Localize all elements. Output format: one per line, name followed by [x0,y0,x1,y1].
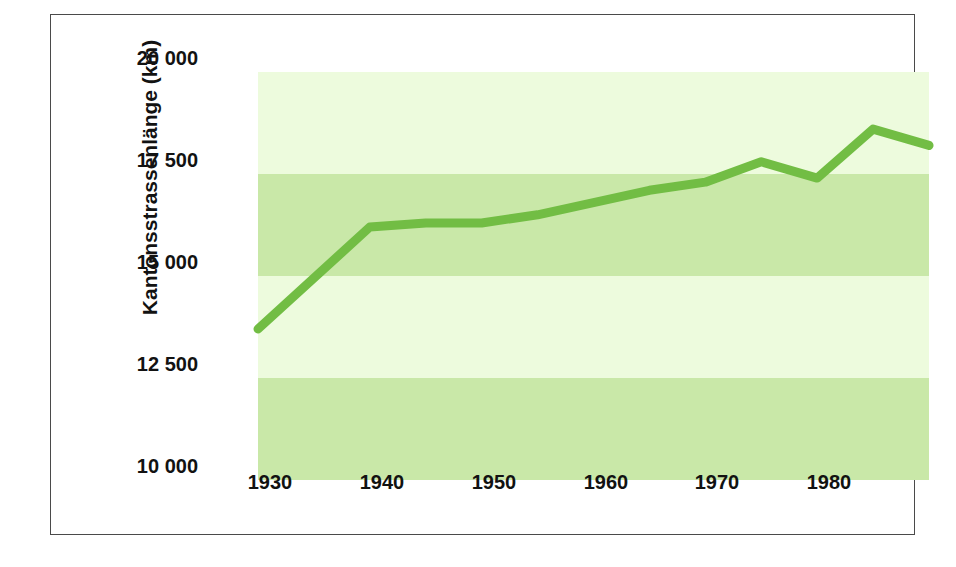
x-axis-tick-labels: 1930 1940 1950 1960 1970 1980 [0,472,956,512]
chart-figure: Kantonsstrassenlänge (km) 20 000 17 500 … [0,0,956,567]
y-tick-12500: 12 500 [137,354,198,374]
x-tick-1940: 1940 [342,472,422,492]
data-line-layer [258,72,929,480]
data-series-line [258,129,929,329]
x-tick-1950: 1950 [454,472,534,492]
x-tick-1970: 1970 [677,472,757,492]
y-tick-17500: 17 500 [137,150,198,170]
x-tick-1930: 1930 [230,472,310,492]
x-tick-1980: 1980 [789,472,869,492]
y-tick-20000: 20 000 [137,48,198,68]
x-tick-1960: 1960 [566,472,646,492]
plot-area [258,72,929,480]
y-tick-15000: 15 000 [137,252,198,272]
